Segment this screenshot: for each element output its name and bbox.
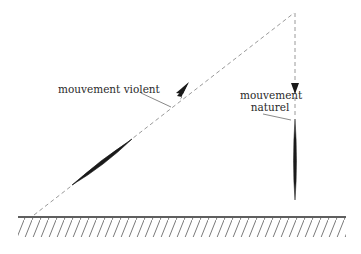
label-naturel-line1: mouvement xyxy=(240,89,300,101)
aristotelian-motion-diagram: mouvement violent mouvement naturel xyxy=(0,0,361,254)
naturel-label-leader xyxy=(263,114,291,120)
ground-hatching xyxy=(18,218,346,237)
violent-projectile-shape xyxy=(72,139,132,185)
natural-projectile-shape xyxy=(294,119,297,200)
label-mouvement-naturel: mouvement naturel xyxy=(240,89,300,113)
violent-label-leader xyxy=(141,93,171,107)
label-mouvement-violent: mouvement violent xyxy=(58,83,160,95)
label-naturel-line2: naturel xyxy=(240,101,300,113)
